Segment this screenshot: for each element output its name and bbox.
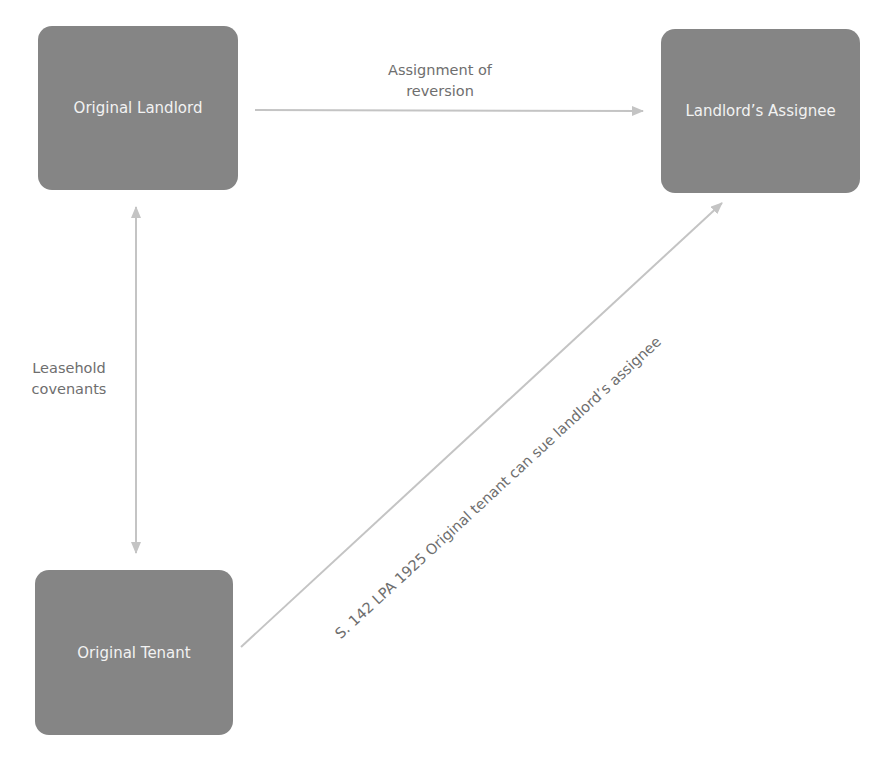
edge-label-leasehold-covenants: Leasehold covenants <box>14 358 124 400</box>
node-label: Original Landlord <box>74 99 203 117</box>
s142-arrow <box>241 203 722 647</box>
assignment-of-reversion-arrow <box>255 110 643 111</box>
node-landlords-assignee: Landlord’s Assignee <box>661 29 860 193</box>
edge-label-line: covenants <box>14 379 124 400</box>
edge-label-line: Leasehold <box>14 358 124 379</box>
node-label: Landlord’s Assignee <box>685 102 835 120</box>
edge-label-line: Assignment of <box>340 60 540 81</box>
edge-label-line: reversion <box>340 81 540 102</box>
node-original-landlord: Original Landlord <box>38 26 238 190</box>
node-original-tenant: Original Tenant <box>35 570 233 735</box>
edge-label-assignment-of-reversion: Assignment of reversion <box>340 60 540 102</box>
node-label: Original Tenant <box>77 644 190 662</box>
